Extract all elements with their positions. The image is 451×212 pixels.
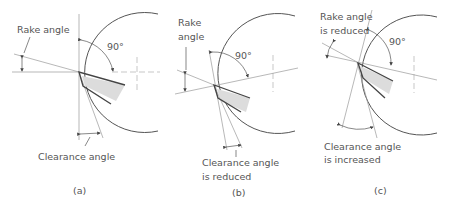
ninety-degree-arc <box>369 30 391 65</box>
rake-angle-label-line1: Rake <box>178 17 201 28</box>
rake-face-line <box>177 70 214 85</box>
rake-reference-line <box>325 55 357 62</box>
rake-face-line <box>322 43 357 62</box>
rake-angle-label-line2: angle <box>178 31 205 42</box>
caption-c: (c) <box>374 185 387 196</box>
cutting-tool-angle-diagram: 90° Rake angle Clearance angle (a) 90° R… <box>0 0 451 212</box>
panel-a: 90° Rake angle Clearance angle (a) <box>12 12 160 196</box>
caption-a: (a) <box>73 185 86 196</box>
clearance-angle-label-line1: Clearance angle <box>324 141 401 152</box>
rake-face-line <box>14 54 79 72</box>
ninety-degree-label: 90° <box>235 50 252 61</box>
rake-angle-label-line2: is reduced <box>320 25 369 36</box>
rake-leader <box>24 37 30 53</box>
rake-angle-label: Rake angle <box>17 24 70 35</box>
ninety-degree-label: 90° <box>389 36 406 47</box>
clearance-angle-arrow <box>226 145 241 147</box>
clearance-leader <box>85 137 90 146</box>
clearance-angle-arrow <box>340 125 373 129</box>
clearance-angle-label-line1: Clearance angle <box>202 157 279 168</box>
clearance-angle-arrow <box>80 133 100 134</box>
clearance-angle-label-line2: is increased <box>324 154 381 165</box>
caption-b: (b) <box>232 187 245 198</box>
ninety-degree-label: 90° <box>107 41 124 52</box>
rake-angle-label-line1: Rake angle <box>320 11 373 22</box>
workpiece-circle <box>218 14 295 134</box>
panel-c: 90° Rake angle is reduced Clearance angl… <box>320 10 437 196</box>
clearance-angle-label-line2: is reduced <box>202 171 251 182</box>
panel-b: 90° Rake angle Clearance angle is reduce… <box>175 14 298 199</box>
clearance-angle-label: Clearance angle <box>38 151 115 162</box>
tilted-reference-line <box>175 68 298 94</box>
workpiece-circle <box>85 12 158 132</box>
